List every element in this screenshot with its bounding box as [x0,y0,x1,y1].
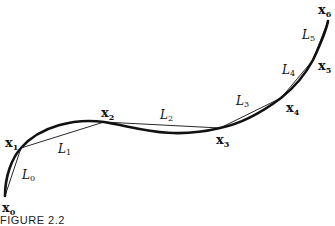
label-x5: x5 [318,58,331,75]
chord-L5 [313,21,328,60]
label-x6: x6 [318,2,332,19]
label-x4: x4 [286,100,300,117]
label-L1: L1 [57,142,71,157]
label-L3: L3 [235,94,249,109]
label-x2: x2 [101,105,114,122]
label-L0: L0 [21,168,35,183]
figure-caption: FIGURE 2.2 [0,214,65,226]
label-x1: x1 [5,135,18,152]
chord-L3 [220,98,281,128]
curve-diagram: x0 x1 x2 x3 x4 x5 x6 L0 L1 L2 L3 L4 L5 [0,0,335,226]
label-x3: x3 [216,132,230,149]
label-L4: L4 [281,63,295,78]
label-L2: L2 [159,108,173,123]
label-L5: L5 [301,28,315,43]
